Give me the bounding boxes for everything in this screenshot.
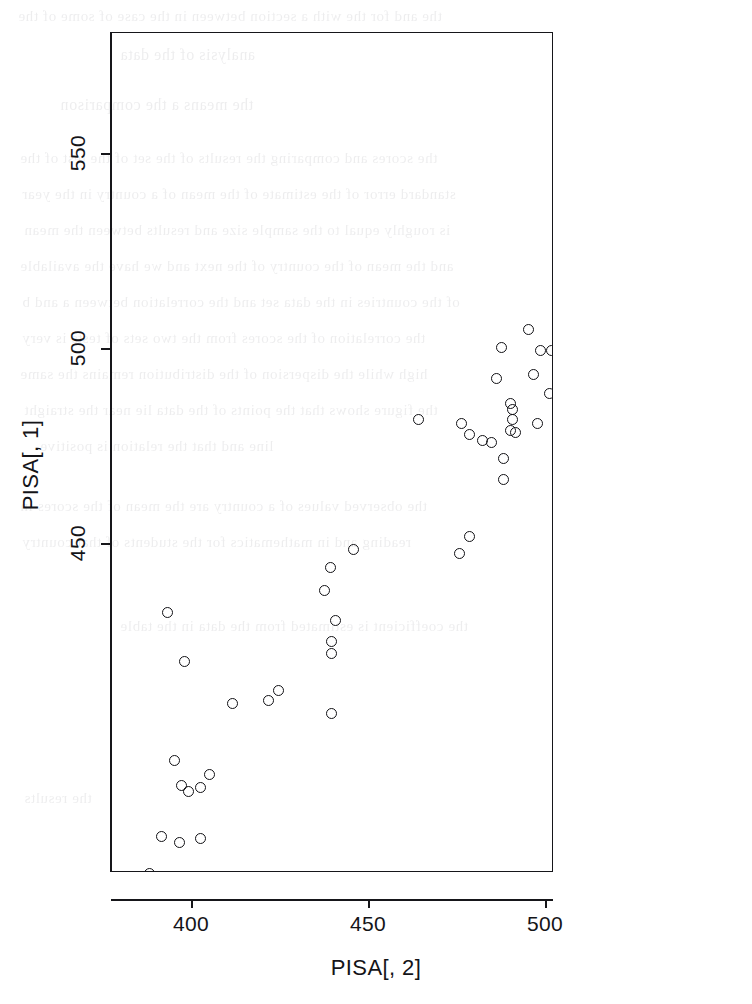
y-axis-tick xyxy=(101,153,110,155)
data-point xyxy=(263,695,274,706)
data-point xyxy=(413,414,424,425)
data-point xyxy=(498,453,509,464)
data-point xyxy=(162,607,173,618)
data-point xyxy=(464,429,475,440)
x-axis-tick xyxy=(545,899,547,908)
y-axis-title: PISA[, 1] xyxy=(18,355,44,575)
data-point xyxy=(273,685,284,696)
plot-panel-frame xyxy=(111,32,553,872)
x-axis-line xyxy=(111,899,553,901)
y-axis-tick-label: 500 xyxy=(66,328,90,368)
data-point xyxy=(546,345,552,356)
data-points-layer xyxy=(112,33,552,871)
data-point xyxy=(544,388,552,399)
data-point xyxy=(498,474,509,485)
data-point xyxy=(454,548,465,559)
data-point xyxy=(156,831,167,842)
data-point xyxy=(326,708,337,719)
data-point xyxy=(227,698,238,709)
data-point xyxy=(174,837,185,848)
x-axis-tick-label: 450 xyxy=(350,912,386,936)
y-axis-tick xyxy=(101,543,110,545)
y-axis-line xyxy=(110,32,112,872)
x-axis-tick-label: 400 xyxy=(173,912,209,936)
y-axis-tick xyxy=(101,348,110,350)
x-axis-title: PISA[, 2] xyxy=(0,955,752,981)
data-point xyxy=(491,373,502,384)
data-point xyxy=(195,782,206,793)
data-point xyxy=(144,868,155,871)
data-point xyxy=(326,648,337,659)
data-point xyxy=(204,769,215,780)
data-point xyxy=(496,342,507,353)
data-point xyxy=(169,755,180,766)
data-point xyxy=(535,345,546,356)
data-point xyxy=(348,544,359,555)
data-point xyxy=(510,427,521,438)
data-point xyxy=(507,414,518,425)
data-point xyxy=(523,324,534,335)
x-axis-tick xyxy=(191,899,193,908)
x-axis-tick-label: 500 xyxy=(527,912,563,936)
data-point xyxy=(528,369,539,380)
data-point xyxy=(319,585,330,596)
data-point xyxy=(330,615,341,626)
data-point xyxy=(486,437,497,448)
scatter-plot-figure: 400450500 450500550 PISA[, 2] PISA[, 1] xyxy=(0,0,752,1004)
data-point xyxy=(532,418,543,429)
data-point xyxy=(183,786,194,797)
data-point xyxy=(195,833,206,844)
data-point xyxy=(326,636,337,647)
data-point xyxy=(325,562,336,573)
x-axis-tick xyxy=(368,899,370,908)
y-axis-tick-label: 450 xyxy=(66,523,90,563)
data-point xyxy=(456,418,467,429)
y-axis-tick-label: 550 xyxy=(66,133,90,173)
data-point xyxy=(464,531,475,542)
data-point xyxy=(179,656,190,667)
